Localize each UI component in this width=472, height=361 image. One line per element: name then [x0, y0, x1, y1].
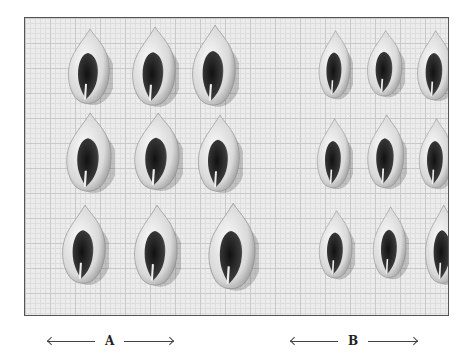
shell-a [193, 112, 243, 196]
caption-label-a: A [105, 334, 114, 348]
photo-grid-paper [24, 17, 449, 316]
shell-b [369, 204, 409, 282]
shell-b [313, 116, 353, 192]
caption-label-b: B [348, 334, 358, 348]
shell-a [57, 202, 109, 288]
shell-b [363, 112, 407, 192]
arrow-right-icon [368, 341, 418, 342]
shell-b [421, 202, 449, 288]
shell-b [363, 28, 405, 100]
shell-b [315, 208, 355, 282]
shell-b [415, 116, 449, 192]
shell-a [129, 110, 183, 194]
caption-group-a: A [47, 334, 174, 348]
shell-b [413, 28, 449, 104]
caption-group-b: B [290, 334, 418, 348]
shell-a [63, 26, 113, 108]
shell-a [203, 200, 259, 294]
arrow-left-icon [47, 341, 95, 342]
shell-a [127, 24, 179, 110]
shell-a [129, 202, 181, 290]
shell-a [187, 22, 239, 110]
arrow-left-icon [290, 341, 338, 342]
shell-b [315, 28, 353, 102]
arrow-right-icon [124, 341, 174, 342]
shell-a [61, 110, 115, 196]
